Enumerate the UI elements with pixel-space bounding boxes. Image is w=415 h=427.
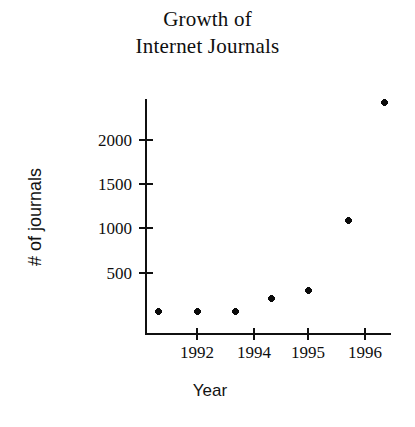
y-axis-label-1500: 1500	[70, 176, 132, 193]
chart-figure: Growth of Internet Journals 500 1000 150…	[0, 0, 415, 427]
x-axis-tick-1994	[253, 328, 255, 340]
x-axis-tick-1995	[307, 328, 309, 340]
x-axis-tick-1996	[364, 328, 366, 340]
y-axis-tick-1000	[139, 227, 153, 229]
x-axis-label-1992: 1992	[171, 344, 223, 361]
x-axis-line	[146, 333, 391, 335]
y-axis-title: # of journals	[25, 137, 45, 297]
data-point	[233, 309, 238, 314]
data-point	[306, 288, 311, 293]
y-axis-tick-1500	[139, 183, 153, 185]
x-axis-label-1996: 1996	[339, 344, 391, 361]
data-point	[156, 309, 161, 314]
y-axis-label-2000: 2000	[70, 132, 132, 149]
data-point	[382, 100, 387, 105]
y-axis-tick-500	[139, 272, 153, 274]
x-axis-title: Year	[150, 381, 270, 400]
y-axis-label-1000: 1000	[70, 220, 132, 237]
data-point	[269, 296, 274, 301]
y-axis-line	[145, 99, 147, 335]
data-point	[346, 218, 351, 223]
data-point	[195, 309, 200, 314]
plot-area: 500 1000 1500 2000 1992 1994 1995 1996 #…	[0, 0, 415, 427]
y-axis-tick-2000	[139, 139, 153, 141]
x-axis-label-1995: 1995	[282, 344, 334, 361]
x-axis-tick-1992	[196, 328, 198, 340]
y-axis-label-500: 500	[70, 265, 132, 282]
x-axis-label-1994: 1994	[228, 344, 280, 361]
